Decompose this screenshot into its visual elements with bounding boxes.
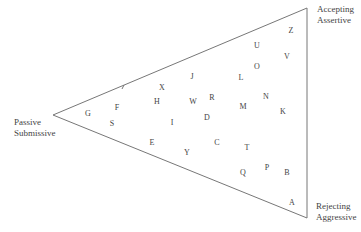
point-j: J xyxy=(190,73,193,81)
vertex-label-line: Accepting xyxy=(317,4,354,15)
point-a: A xyxy=(289,199,295,207)
point-o: O xyxy=(254,63,260,71)
point-i: I xyxy=(171,119,174,127)
point-n: N xyxy=(263,93,269,101)
vertex-label-line: Submissive xyxy=(14,128,56,139)
point-y: Y xyxy=(184,149,190,157)
point-c: C xyxy=(214,139,219,147)
point-q: Q xyxy=(240,169,246,177)
point-g: G xyxy=(85,110,91,118)
point-f: F xyxy=(115,104,119,112)
point-b: B xyxy=(284,169,289,177)
point-l: L xyxy=(239,74,244,82)
point-v: V xyxy=(284,53,290,61)
vertex-label-line: Assertive xyxy=(317,15,354,26)
vertex-label-line: Passive xyxy=(14,117,56,128)
point-z: Z xyxy=(289,27,294,35)
point-u: U xyxy=(254,42,260,50)
point-k: K xyxy=(280,108,286,116)
vertex-label-line: Rejecting xyxy=(316,201,357,212)
vertex-label-bottom-right: RejectingAggressive xyxy=(316,201,357,223)
point-w: W xyxy=(189,98,197,106)
vertex-label-line: Aggressive xyxy=(316,212,357,223)
point-r: R xyxy=(209,94,214,102)
point-e: E xyxy=(150,139,155,147)
point-h: H xyxy=(154,98,160,106)
point-t: T xyxy=(245,144,250,152)
vertex-label-top-right: AcceptingAssertive xyxy=(317,4,354,26)
point-d: D xyxy=(204,114,210,122)
triangle-diagram xyxy=(0,0,361,232)
point-m: M xyxy=(239,103,246,111)
point-p: P xyxy=(265,164,269,172)
point-x: X xyxy=(159,84,165,92)
point-s: S xyxy=(110,120,114,128)
vertex-label-left: PassiveSubmissive xyxy=(14,117,56,139)
